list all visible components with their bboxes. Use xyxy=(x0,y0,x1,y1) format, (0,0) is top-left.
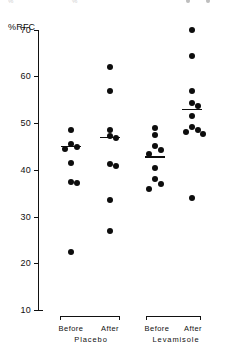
y-tick-10 xyxy=(34,310,38,311)
artifact-text-left: % xyxy=(8,0,14,4)
artifact-text-mid: % xyxy=(72,0,78,4)
data-point xyxy=(107,228,113,234)
y-axis-foot xyxy=(38,310,43,311)
y-tick-label-40: 40 xyxy=(13,165,31,175)
data-point xyxy=(68,160,74,166)
group-label-before-levamisole: Before xyxy=(138,324,176,333)
y-tick-label-60: 60 xyxy=(13,71,31,81)
data-point xyxy=(146,186,152,192)
group-label-before-placebo: Before xyxy=(52,324,90,333)
median-line xyxy=(100,137,120,139)
data-point xyxy=(189,195,195,201)
median-line xyxy=(182,109,202,111)
group-label-after-levamisole: After xyxy=(176,324,210,333)
data-point xyxy=(152,125,158,131)
y-tick-label-10: 10 xyxy=(13,305,31,315)
data-point xyxy=(158,181,164,187)
data-point xyxy=(183,129,189,135)
data-point xyxy=(200,131,206,137)
data-point xyxy=(189,27,195,33)
data-point xyxy=(189,88,195,94)
data-point xyxy=(107,197,113,203)
data-point xyxy=(152,143,158,149)
group-label-after-placebo: After xyxy=(93,324,127,333)
bracket-placebo xyxy=(60,316,120,321)
y-tick-60 xyxy=(34,76,38,77)
artifact-dot xyxy=(206,0,210,3)
data-point xyxy=(74,180,80,186)
y-tick-40 xyxy=(34,170,38,171)
data-point xyxy=(68,249,74,255)
data-point xyxy=(152,176,158,182)
y-tick-label-20: 20 xyxy=(13,258,31,268)
median-line xyxy=(145,156,165,158)
treatment-name-placebo: Placebo xyxy=(56,335,126,344)
data-point xyxy=(113,163,119,169)
data-point xyxy=(158,147,164,153)
y-tick-label-30: 30 xyxy=(13,212,31,222)
y-tick-label-50: 50 xyxy=(13,118,31,128)
y-tick-30 xyxy=(34,217,38,218)
y-tick-70 xyxy=(34,30,38,31)
data-point xyxy=(189,53,195,59)
data-point xyxy=(68,127,74,133)
page-edge-artifact: % % xyxy=(0,0,226,10)
y-axis-line xyxy=(38,30,39,311)
median-line xyxy=(61,146,81,148)
data-point xyxy=(107,64,113,70)
y-tick-50 xyxy=(34,123,38,124)
data-point xyxy=(152,165,158,171)
scatter-plot-figure: % % %RFC 70 60 50 40 30 20 10 Before Aft… xyxy=(0,0,226,349)
treatment-name-levamisole: Levamisole xyxy=(136,335,216,344)
y-tick-20 xyxy=(34,263,38,264)
data-point xyxy=(107,88,113,94)
artifact-dot xyxy=(186,0,190,3)
y-tick-label-70: 70 xyxy=(13,25,31,35)
bracket-levamisole xyxy=(146,316,201,321)
data-point xyxy=(152,132,158,138)
data-point xyxy=(189,113,195,119)
